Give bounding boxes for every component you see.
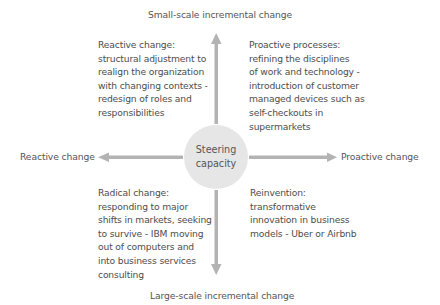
- arrow-right-head: [327, 153, 337, 163]
- quadrant-line: innovation in business: [250, 213, 356, 227]
- arrow-down-shaft: [215, 190, 219, 266]
- arrow-left-shaft: [107, 156, 183, 160]
- arrow-up-head: [211, 33, 222, 44]
- quadrant-title: Reactive change:: [98, 38, 208, 52]
- center-label-line1: Steering: [196, 143, 236, 157]
- axis-label-right: Proactive change: [341, 151, 419, 162]
- quadrant-line: self-checkouts in: [249, 106, 365, 120]
- quadrant-line: with changing contexts -: [98, 79, 208, 93]
- arrow-up-shaft: [215, 42, 219, 124]
- quadrant-line: introduction of customer: [249, 79, 365, 93]
- arrow-left-head: [98, 153, 109, 163]
- quadrant-title: Reinvention:: [250, 186, 356, 200]
- quadrant-bottom-right: Reinvention: transformative innovation i…: [250, 186, 356, 240]
- quadrant-line: responding to major: [98, 200, 212, 214]
- arrow-right-shaft: [249, 156, 329, 160]
- steering-capacity-circle: Steering capacity: [184, 125, 248, 189]
- quadrant-line: shifts in markets, seeking: [98, 213, 212, 227]
- quadrant-line: consulting: [98, 268, 212, 282]
- quadrant-line: responsibilities: [98, 106, 208, 120]
- quadrant-line: realign the organization: [98, 65, 208, 79]
- quadrant-top-left: Reactive change: structural adjustment t…: [98, 38, 208, 120]
- axis-label-top: Small-scale incremental change: [148, 9, 292, 20]
- axis-label-left: Reactive change: [20, 151, 95, 162]
- quadrant-line: refining the disciplines: [249, 52, 365, 66]
- quadrant-line: of work and technology -: [249, 65, 365, 79]
- axis-label-bottom: Large-scale incremental change: [150, 290, 294, 301]
- quadrant-line: to survive - IBM moving: [98, 227, 212, 241]
- quadrant-title: Radical change:: [98, 186, 212, 200]
- quadrant-line: into business services: [98, 254, 212, 268]
- quadrant-top-right: Proactive processes: refining the discip…: [249, 38, 365, 133]
- quadrant-title: Proactive processes:: [249, 38, 365, 52]
- quadrant-bottom-left: Radical change: responding to major shif…: [98, 186, 212, 281]
- quadrant-line: structural adjustment to: [98, 52, 208, 66]
- quadrant-line: supermarkets: [249, 120, 365, 134]
- quadrant-line: transformative: [250, 200, 356, 214]
- quadrant-line: redesign of roles and: [98, 92, 208, 106]
- quadrant-line: managed devices such as: [249, 92, 365, 106]
- quadrant-line: out of computers and: [98, 240, 212, 254]
- center-label-line2: capacity: [196, 157, 237, 171]
- arrow-down-head: [211, 264, 222, 275]
- quadrant-line: models - Uber or Airbnb: [250, 227, 356, 241]
